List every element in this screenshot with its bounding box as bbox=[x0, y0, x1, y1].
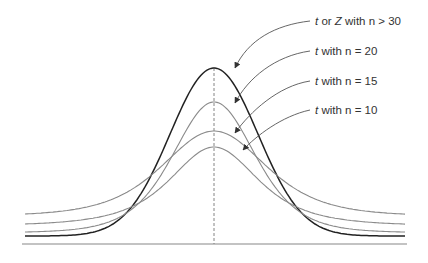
curve-n-10 bbox=[25, 147, 405, 224]
curve-n-gt-30 bbox=[25, 68, 405, 236]
curve-n-15 bbox=[25, 131, 405, 214]
label-n-15: t with n = 15 bbox=[315, 75, 377, 87]
arrow-n-10 bbox=[243, 110, 310, 150]
label-n-20: t with n = 20 bbox=[315, 45, 377, 57]
arrow-n-20 bbox=[235, 51, 310, 103]
label-n-10: t with n = 10 bbox=[315, 104, 377, 116]
curve-n-20 bbox=[25, 102, 405, 232]
label-n-gt-30: t or Z with n > 30 bbox=[315, 15, 401, 27]
t-distribution-chart: t or Z with n > 30 t with n = 20 t with … bbox=[0, 0, 428, 263]
curves-group bbox=[25, 68, 405, 236]
legend-annotations: t or Z with n > 30 t with n = 20 t with … bbox=[235, 15, 401, 150]
arrow-n-gt-30 bbox=[235, 21, 310, 68]
